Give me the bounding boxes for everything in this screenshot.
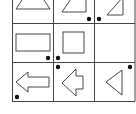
dot-icon xyxy=(97,17,101,21)
dot-icon xyxy=(128,65,132,69)
cell-2-1-rectangle xyxy=(16,34,50,51)
dot-icon xyxy=(87,17,91,21)
cell-2-2-square xyxy=(63,32,84,53)
dot-icon xyxy=(56,56,60,60)
cell-1-3-right-triangle xyxy=(107,0,123,15)
cell-3-2-short-left-arrow xyxy=(62,69,83,96)
dot-icon xyxy=(56,65,60,69)
puzzle-matrix xyxy=(0,0,136,114)
dot-icon xyxy=(15,95,19,99)
cell-3-1-left-arrow xyxy=(16,72,49,92)
dot-icon xyxy=(46,56,50,60)
cell-3-3-left-triangle xyxy=(106,70,122,95)
cell-1-2-trapezoid xyxy=(62,0,86,12)
cell-1-1-triangle xyxy=(16,0,50,9)
